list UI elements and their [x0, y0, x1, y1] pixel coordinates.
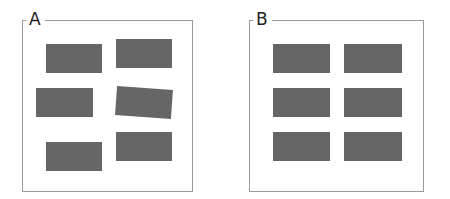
panel-b-rectangle [344, 88, 402, 117]
panel-b-rectangle [273, 88, 330, 117]
panel-b-rectangle [273, 44, 330, 73]
panel-a-rectangle [115, 86, 173, 119]
panel-b-rectangle [344, 132, 402, 161]
panel-a-rectangle [46, 44, 102, 73]
panel-a-rectangle [36, 88, 93, 117]
panel-b-rectangle [273, 132, 330, 161]
panel-b-rectangle [344, 44, 402, 73]
panel-b-label: B [253, 11, 272, 28]
panel-a-label: A [26, 11, 45, 28]
panel-a-rectangle [116, 39, 172, 68]
panel-a-rectangle [116, 132, 172, 161]
panel-a-rectangle [46, 142, 102, 171]
